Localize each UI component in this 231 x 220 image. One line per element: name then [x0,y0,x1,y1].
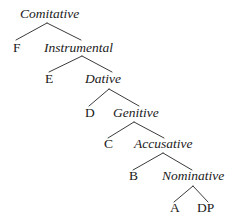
tree-node-e: E [45,72,53,86]
tree-node-b: B [129,169,138,183]
tree-branch [47,23,81,40]
tree-node-genitive: Genitive [113,106,159,120]
tree-branch [16,23,47,40]
syntax-tree-diagram: ComitativeFInstrumentalEDativeDGenitiveC… [0,0,231,220]
tree-node-dative: Dative [85,72,121,86]
tree-node-comitative: Comitative [20,7,79,21]
tree-node-accusative: Accusative [134,137,192,151]
tree-branch [82,56,112,72]
tree-node-a: A [170,201,180,215]
tree-node-instrumental: Instrumental [44,41,113,55]
tree-node-d: D [85,106,95,120]
tree-branch [89,89,109,106]
tree-branch [109,89,139,106]
tree-node-c: C [104,137,113,151]
tree-branch [49,56,82,72]
tree-node-f: F [13,41,21,55]
tree-node-nominative: Nominative [162,169,224,183]
tree-node-dp: DP [197,201,214,215]
